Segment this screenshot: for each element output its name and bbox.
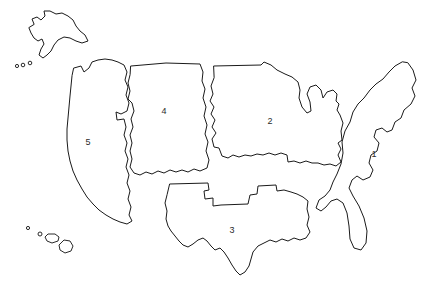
region-shape-mountain-west[interactable] bbox=[128, 63, 209, 175]
us-regions-map: 5 4 2 1 3 bbox=[0, 0, 437, 293]
aleutian-dot-2 bbox=[21, 63, 25, 67]
map-container: 5 4 2 1 3 bbox=[0, 0, 437, 293]
aleutian-dot-3 bbox=[28, 61, 32, 65]
hawaii-dot-2 bbox=[38, 232, 42, 236]
region-group-4[interactable]: 4 bbox=[128, 63, 209, 175]
aleutian-dot-1 bbox=[15, 64, 18, 67]
hawaii-dot-1 bbox=[26, 226, 29, 229]
